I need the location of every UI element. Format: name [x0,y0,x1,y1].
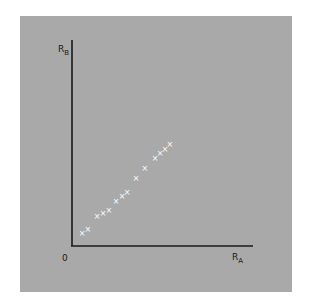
y-axis-label: RB [58,44,69,57]
data-point-marker: × [133,174,140,183]
data-point-marker: × [106,206,113,215]
data-point-marker: × [167,140,174,149]
origin-label: 0 [62,253,68,263]
data-point-marker: × [85,225,92,234]
x-axis-label: RA [232,252,243,265]
data-points: ×××××××××××××× [79,140,174,238]
data-point-marker: × [124,188,131,197]
data-point-marker: × [142,164,149,173]
scatter-plot: RB RA 0 ×××××××××××××× [0,0,311,308]
